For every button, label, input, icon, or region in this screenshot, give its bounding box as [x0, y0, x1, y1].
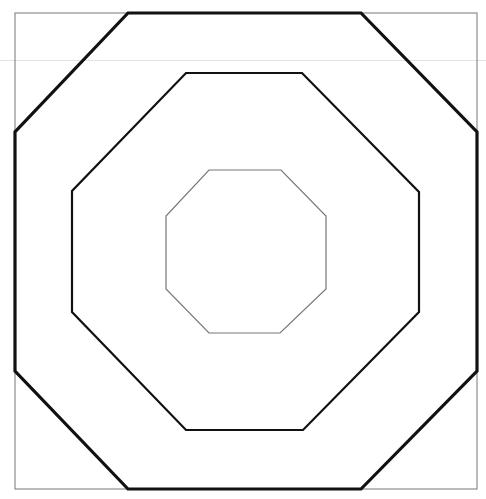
middle-octagon: [72, 73, 419, 430]
bounding-square: [15, 13, 477, 489]
nested-octagons-diagram: [0, 0, 486, 499]
outer-octagon: [15, 13, 477, 489]
inner-octagon: [166, 170, 326, 333]
